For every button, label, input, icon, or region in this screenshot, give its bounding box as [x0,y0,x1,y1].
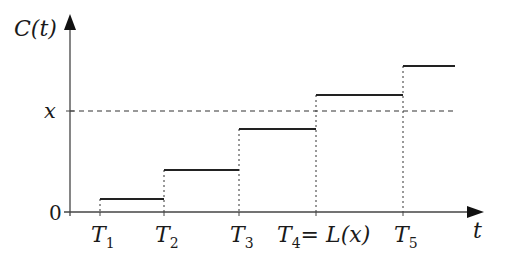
diagram-canvas: C(t) x 0 t T1 T2 T3 T4= L(x) T5 [0,0,508,263]
tick-label-t5: T5 [394,222,418,251]
x-axis-arrow-icon [467,206,484,218]
origin-label: 0 [49,201,62,225]
tick-label-t1: T1 [91,222,115,251]
step-function-diagram: C(t) x 0 t T1 T2 T3 T4= L(x) T5 [0,0,508,263]
y-axis-arrow-icon [64,14,76,30]
tick-label-t2: T2 [155,222,179,251]
x-axis-label: t [473,218,482,243]
tick-label-t4: T4= L(x) [277,222,370,251]
y-axis-label: C(t) [14,16,57,41]
tick-label-t3: T3 [230,222,254,251]
threshold-label: x [44,99,56,123]
